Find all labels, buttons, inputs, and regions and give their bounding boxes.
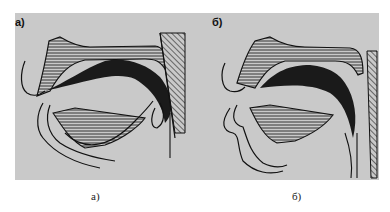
- caption-b: б): [292, 190, 301, 202]
- caption-a: а): [91, 190, 100, 202]
- panel-a-drawing: [21, 33, 185, 168]
- panel-a-label: а): [15, 16, 25, 28]
- panel-b-drawing: [222, 37, 377, 178]
- articulation-diagram: [15, 13, 379, 180]
- figure-panel: а) б): [15, 13, 379, 180]
- panel-b-label: б): [212, 16, 222, 28]
